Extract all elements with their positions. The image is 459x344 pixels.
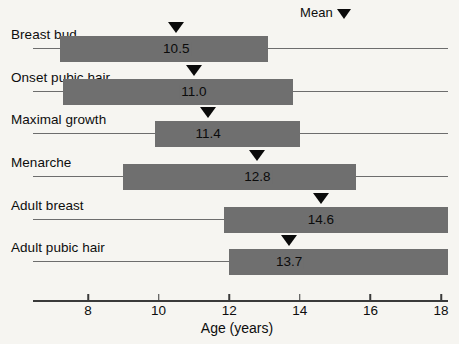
x-axis-line — [33, 300, 448, 302]
row-label-adult-pubic-hair: Adult pubic hair — [11, 240, 105, 255]
range-bar — [155, 121, 300, 147]
mean-triangle-icon — [200, 107, 216, 118]
x-axis-title: Age (years) — [201, 320, 273, 336]
legend-label: Mean — [300, 5, 333, 20]
mean-value-label: 11.4 — [193, 127, 222, 141]
range-bar — [229, 249, 448, 275]
x-tick-label: 8 — [84, 303, 92, 318]
x-tick — [370, 294, 372, 301]
x-tick — [228, 294, 230, 301]
x-tick — [87, 294, 89, 301]
range-bar — [123, 164, 356, 190]
mean-value-label: 11.0 — [179, 85, 208, 99]
mean-triangle-icon — [313, 193, 329, 204]
x-tick — [440, 294, 442, 301]
x-tick-label: 18 — [433, 303, 448, 318]
mean-triangle-icon — [168, 22, 184, 33]
legend-mean-triangle-icon — [337, 9, 351, 19]
row-label-maximal-growth: Maximal growth — [11, 112, 106, 127]
mean-value-label: 10.5 — [161, 42, 191, 56]
x-tick — [158, 294, 160, 301]
row-label-menarche: Menarche — [11, 155, 71, 170]
mean-value-label: 12.8 — [242, 170, 272, 184]
x-tick-label: 12 — [222, 303, 237, 318]
x-tick — [299, 294, 301, 301]
range-bar — [63, 79, 292, 105]
x-tick-label: 10 — [151, 303, 166, 318]
x-tick-label: 14 — [292, 303, 307, 318]
x-tick-label: 16 — [363, 303, 378, 318]
puberty-milestones-chart: Mean Breast bud10.5Onset pubic hair11.0M… — [0, 0, 459, 344]
row-label-adult-breast: Adult breast — [11, 198, 84, 213]
mean-value-label: 13.7 — [274, 255, 304, 269]
mean-triangle-icon — [249, 150, 265, 161]
mean-value-label: 14.6 — [306, 213, 336, 227]
mean-triangle-icon — [281, 235, 297, 246]
mean-triangle-icon — [186, 65, 202, 76]
